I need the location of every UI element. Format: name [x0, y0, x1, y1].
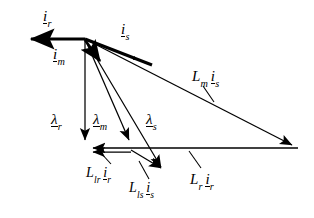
- leader-Lls-is: [139, 161, 149, 179]
- vector-diagram: ir is im λr λm λs Lmis Llrir Llsis Lrir: [0, 0, 314, 218]
- label-Lr-ir-current-symbol: i: [205, 172, 209, 187]
- label-rotor-current-subscript: r: [47, 18, 51, 29]
- label-magnetizing-current: im: [53, 47, 65, 65]
- label-Lm-is-lead-subscript: m: [201, 78, 208, 89]
- label-Lm-is-lead-symbol: L: [192, 68, 200, 84]
- label-stator-flux-linkage-subscript: s: [153, 121, 157, 132]
- label-Lr-ir-lead-subscript: r: [199, 181, 203, 192]
- label-Lls-is-lead-subscript: ls: [137, 190, 144, 200]
- label-Llr-ir-current-subscript: r: [107, 175, 111, 185]
- label-stator-current-subscript: s: [125, 31, 129, 42]
- label-Lm-is-current-subscript: s: [215, 78, 219, 89]
- label-stator-current: is: [121, 22, 129, 40]
- label-mutual-flux-linkage-subscript: m: [100, 121, 107, 132]
- leader-Lr-ir: [189, 151, 201, 168]
- label-mutual-flux-linkage: λm: [93, 112, 107, 130]
- label-mutual-inductance-stator-current: Lmis: [192, 69, 219, 87]
- label-Llr-ir-lead-subscript: lr: [94, 175, 101, 185]
- label-rotor-flux-linkage-subscript: r: [58, 121, 62, 132]
- label-Lls-is-lead-symbol: L: [129, 180, 137, 195]
- label-rotor-leakage-inductance-rotor-current: Llrir: [86, 166, 111, 183]
- vector-diagram-canvas: [0, 0, 314, 218]
- label-stator-leakage-inductance-stator-current: Llsis: [129, 181, 154, 198]
- label-Lr-ir-lead-symbol: L: [190, 171, 198, 187]
- leader-Llr-ir: [100, 152, 111, 164]
- label-rotor-current: ir: [43, 9, 51, 27]
- label-Lls-is-current-subscript: s: [150, 190, 154, 200]
- label-Llr-ir-lead-symbol: L: [86, 165, 94, 180]
- label-magnetizing-current-subscript: m: [57, 56, 64, 67]
- label-rotor-inductance-rotor-current: Lrir: [190, 172, 214, 190]
- label-rotor-flux-linkage-symbol: λ: [51, 112, 58, 127]
- label-stator-flux-linkage: λs: [146, 112, 157, 130]
- label-mutual-flux-linkage-symbol: λ: [93, 112, 100, 127]
- label-rotor-flux-linkage: λr: [51, 112, 62, 130]
- label-Lr-ir-current-subscript: r: [210, 181, 214, 192]
- label-stator-flux-linkage-symbol: λ: [146, 112, 153, 127]
